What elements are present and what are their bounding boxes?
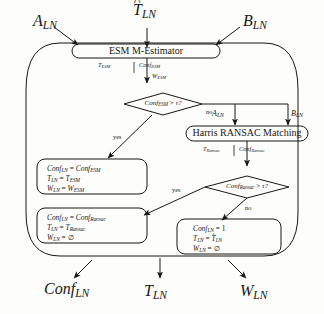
edge-output-w (228, 260, 246, 278)
input-label-a-ln: ALN (33, 13, 57, 31)
input-label-t-hat-ln: ^TLN (133, 2, 156, 20)
assign-esm-line-3: WLN = WESM (47, 184, 84, 196)
branch-label-decision2-no: no (245, 204, 251, 211)
branch-label-decision2-yes: yes (172, 186, 180, 193)
flowchart-diagram: ALN ^TLN BLN ESM M-Estimator TESM ConfES… (0, 0, 324, 314)
branch-label-decision1-yes: yes (113, 133, 121, 140)
edge-input-a (54, 27, 78, 45)
edge-input-b (216, 27, 240, 45)
flow-label-w-esm: WESM (152, 72, 166, 80)
output-label-w-ln: WLN (240, 283, 267, 301)
flow-label-conf-ransac: ConfRansac (239, 145, 265, 153)
node-label-decision-conf-esm: ConfESM > τ? (124, 99, 202, 107)
node-label-esm-estimator: ESM M-Estimator (72, 45, 220, 56)
flow-label-b-ln-ransac: BLN (291, 110, 303, 119)
output-label-conf-ln: ConfLN (44, 281, 89, 299)
edge-decision2-no (222, 198, 247, 220)
flow-label-a-ln-ransac: ALN (212, 110, 224, 119)
assign-fail-line-3: WLN = ∅ (193, 244, 220, 256)
node-label-decision-conf-ransac: ConfRansac > τ? (205, 182, 289, 190)
output-label-t-ln: TLN (144, 283, 167, 301)
flow-label-t-ransac: TRansac (203, 145, 220, 153)
flow-label-conf-esm: ConfESM (139, 61, 160, 69)
input-label-b-ln: BLN (243, 13, 267, 31)
edge-output-conf (74, 260, 92, 278)
assign-ransac-line-3: WLN = ∅ (47, 233, 74, 245)
flow-label-t-esm: TESM (98, 61, 110, 69)
node-label-harris-ransac: Harris RANSAC Matching (186, 127, 308, 138)
